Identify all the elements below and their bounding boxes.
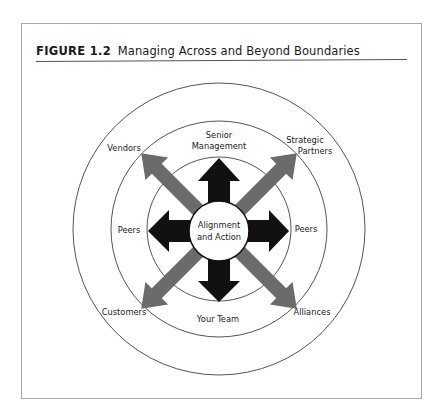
boundaries-diagram: Alignment and Action Senior Management P… <box>0 0 445 420</box>
label-peers-left: Peers <box>118 225 141 235</box>
label-your-team: Your Team <box>196 314 239 324</box>
label-strategic-line2: Partners <box>298 146 332 156</box>
label-senior-line1: Senior <box>206 130 233 140</box>
center-label-line1: Alignment <box>198 220 241 230</box>
label-customers: Customers <box>102 307 147 317</box>
label-senior-line2: Management <box>192 141 247 151</box>
center-circle <box>189 201 249 261</box>
label-peers-right: Peers <box>295 224 318 234</box>
label-strategic-line1: Strategic <box>286 135 324 145</box>
label-vendors: Vendors <box>107 143 140 153</box>
center-label-line2: and Action <box>197 232 241 242</box>
label-alliances: Alliances <box>294 307 331 317</box>
